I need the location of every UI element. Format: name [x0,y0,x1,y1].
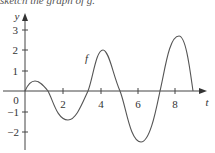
chart: 0 2 4 6 8 t 3 2 1 −1 −2 y f [0,0,215,153]
x-axis-arrow-icon [199,88,207,94]
y-tick-3: 3 [13,24,19,36]
x-tick-6: 6 [135,98,141,110]
x-tick-4: 4 [98,98,104,110]
y-axis-arrow-icon [22,13,28,21]
y-tick-1: 1 [13,65,19,77]
curve-f [25,36,193,142]
origin-label: 0 [13,94,19,106]
x-tick-2: 2 [60,98,66,110]
curve-label-f: f [85,52,90,64]
x-axis-label: t [205,96,209,108]
y-axis-label: y [14,10,20,22]
x-tick-8: 8 [172,98,178,110]
ticks [22,30,175,132]
y-tick-neg2: −2 [7,126,19,138]
y-tick-2: 2 [13,44,19,56]
y-tick-neg1: −1 [7,106,19,118]
